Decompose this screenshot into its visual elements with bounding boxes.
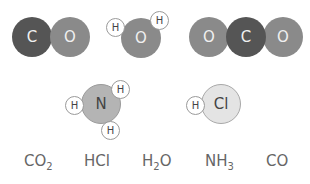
formula-label-nh3: NH3 <box>205 152 234 172</box>
carbon-atom: C <box>12 17 52 57</box>
hydrogen-atom: H <box>111 80 130 99</box>
chlorine-atom: Cl <box>201 84 241 124</box>
hydrogen-atom: H <box>150 11 169 30</box>
formula-label-hcl: HCl <box>84 152 110 172</box>
hydrogen-atom: H <box>65 96 84 115</box>
oxygen-atom: O <box>50 17 90 57</box>
carbon-atom: C <box>226 17 266 57</box>
oxygen-atom: O <box>263 17 303 57</box>
hydrogen-atom: H <box>101 121 120 140</box>
hydrogen-atom: H <box>186 96 205 115</box>
formula-label-co2: CO2 <box>24 152 53 172</box>
hydrogen-atom: H <box>106 18 125 37</box>
oxygen-atom: O <box>189 17 229 57</box>
formula-label-h2o: H2O <box>142 152 171 172</box>
formula-label-co: CO <box>266 152 288 172</box>
